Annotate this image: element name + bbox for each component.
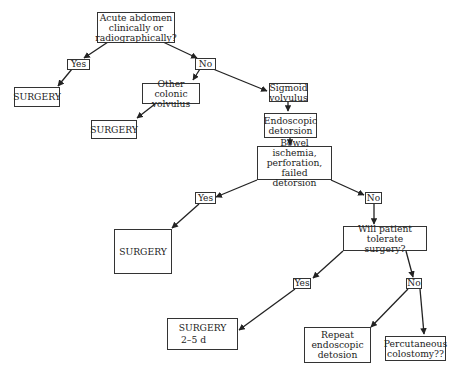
surgery-node-4-duration: 2–5 d <box>181 335 206 345</box>
percutaneous-colostomy-node: Percutaneous colostomy?? <box>385 336 446 361</box>
repeat-endoscopic-detorsion-text: Repeat endoscopic detosion <box>311 330 363 360</box>
yes-label-1: Yes <box>67 59 90 70</box>
endoscopic-detorsion-text: Endoscopic detorsion <box>264 116 317 136</box>
surgery-node-2-text: SURGERY <box>90 125 138 135</box>
no-label-2-text: No <box>367 194 380 203</box>
yes-label-3-text: Yes <box>294 279 309 288</box>
flowchart-connectors <box>0 0 456 372</box>
surgery-node-3: SURGERY <box>114 229 172 274</box>
yes-label-2: Yes <box>195 192 216 204</box>
tolerate-surgery-text: Will patient tolerate surgery? <box>346 224 424 254</box>
yes-label-1-text: Yes <box>71 60 86 69</box>
no-label-1: No <box>195 58 216 70</box>
surgery-node-1: SURGERY <box>14 87 60 107</box>
no-label-1-text: No <box>199 60 212 69</box>
bowel-ischemia-decision-node: Bowel ischemia, perforation, failed deto… <box>257 146 332 180</box>
no-label-2: No <box>365 192 382 204</box>
no-label-3: No <box>406 278 422 289</box>
surgery-2-5-days-node: SURGERY 2–5 d <box>167 318 238 350</box>
tolerate-surgery-decision-node: Will patient tolerate surgery? <box>343 226 427 251</box>
percutaneous-colostomy-text: Percutaneous colostomy?? <box>384 339 447 359</box>
other-colonic-volvulus-node: Other colonic volvulus <box>142 83 200 104</box>
surgery-node-3-text: SURGERY <box>119 247 167 257</box>
surgery-node-4-title: SURGERY <box>179 323 227 333</box>
repeat-endoscopic-detorsion-node: Repeat endoscopic detosion <box>304 327 371 363</box>
other-colonic-volvulus-text: Other colonic volvulus <box>145 79 197 109</box>
sigmoid-volvulus-text: Sigmoid volvulus <box>269 83 307 103</box>
acute-abdomen-text: Acute abdomen clinically or radiographic… <box>95 13 176 43</box>
no-label-3-text: No <box>407 279 420 288</box>
yes-label-3: Yes <box>293 278 311 289</box>
surgery-node-1-text: SURGERY <box>13 92 61 102</box>
yes-label-2-text: Yes <box>198 194 213 203</box>
sigmoid-volvulus-node: Sigmoid volvulus <box>269 83 308 102</box>
endoscopic-detorsion-node: Endoscopic detorsion <box>264 113 317 138</box>
surgery-node-2: SURGERY <box>91 120 137 139</box>
bowel-ischemia-text: Bowel ischemia, perforation, failed deto… <box>260 138 329 188</box>
acute-abdomen-decision-node: Acute abdomen clinically or radiographic… <box>97 12 175 43</box>
